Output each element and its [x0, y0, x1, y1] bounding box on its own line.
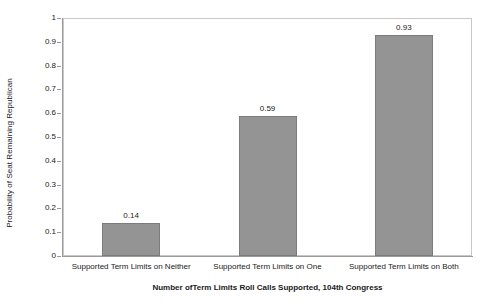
y-axis-tick-mark [57, 42, 61, 43]
x-axis-tick-labels: Supported Term Limits on NeitherSupporte… [63, 262, 472, 276]
bar-value-label: 0.14 [123, 211, 139, 220]
bar [239, 116, 297, 256]
x-axis-tick-label: Supported Term Limits on Both [336, 262, 472, 271]
y-axis-tick-mark [57, 232, 61, 233]
bar [375, 35, 433, 256]
bar [102, 223, 160, 256]
bars-layer: 0.140.590.93 [63, 18, 472, 256]
x-axis-tick-label: Supported Term Limits on Neither [63, 262, 199, 271]
y-axis-tick-mark [57, 256, 61, 257]
y-axis-tick-mark [57, 18, 61, 19]
x-axis-tick-label: Supported Term Limits on One [199, 262, 335, 271]
y-axis-tick-mark [57, 137, 61, 138]
x-axis-title: Number ofTerm Limits Roll Calls Supporte… [63, 283, 472, 292]
bar-group: 0.93 [375, 18, 433, 256]
bar-group: 0.59 [239, 18, 297, 256]
bar-value-label: 0.59 [260, 104, 276, 113]
bar-group: 0.14 [102, 18, 160, 256]
bar-value-label: 0.93 [396, 23, 412, 32]
y-axis-tick-mark [57, 113, 61, 114]
y-axis-tick-mark [57, 66, 61, 67]
y-axis-tick-mark [57, 89, 61, 90]
y-axis-tick-mark [57, 185, 61, 186]
bar-chart: Probability of Seat Remaining Republican… [0, 0, 485, 306]
y-axis-tick-mark [57, 161, 61, 162]
x-axis-line [62, 256, 473, 257]
y-axis-tick-mark [57, 208, 61, 209]
